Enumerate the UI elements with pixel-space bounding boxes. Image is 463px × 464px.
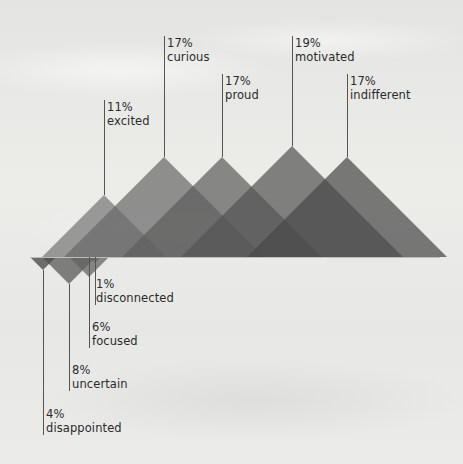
label-excited: 11% excited [107, 100, 150, 128]
label-excited-name: excited [107, 114, 150, 128]
label-uncertain-pct: 8% [72, 363, 128, 377]
label-curious: 17% curious [167, 36, 210, 64]
label-disconnected: 1% disconnected [96, 277, 174, 305]
label-curious-pct: 17% [167, 36, 210, 50]
label-proud-pct: 17% [225, 74, 259, 88]
label-proud: 17% proud [225, 74, 259, 102]
label-disconnected-name: disconnected [96, 291, 174, 305]
label-motivated: 19% motivated [295, 36, 355, 64]
label-motivated-name: motivated [295, 50, 355, 64]
label-focused: 6% focused [92, 320, 138, 348]
label-uncertain-name: uncertain [72, 377, 128, 391]
label-indifferent: 17% indifferent [350, 74, 411, 102]
label-disappointed-name: disappointed [46, 421, 122, 435]
label-indifferent-name: indifferent [350, 88, 411, 102]
label-disconnected-pct: 1% [96, 277, 174, 291]
label-disappointed-pct: 4% [46, 407, 122, 421]
chart-stage: 11% excited 17% curious 17% proud 19% mo… [0, 0, 463, 464]
label-indifferent-pct: 17% [350, 74, 411, 88]
label-focused-name: focused [92, 334, 138, 348]
label-focused-pct: 6% [92, 320, 138, 334]
label-motivated-pct: 19% [295, 36, 355, 50]
emotion-triangle-chart [0, 0, 463, 464]
label-excited-pct: 11% [107, 100, 150, 114]
label-proud-name: proud [225, 88, 259, 102]
label-uncertain: 8% uncertain [72, 363, 128, 391]
label-disappointed: 4% disappointed [46, 407, 122, 435]
label-curious-name: curious [167, 50, 210, 64]
